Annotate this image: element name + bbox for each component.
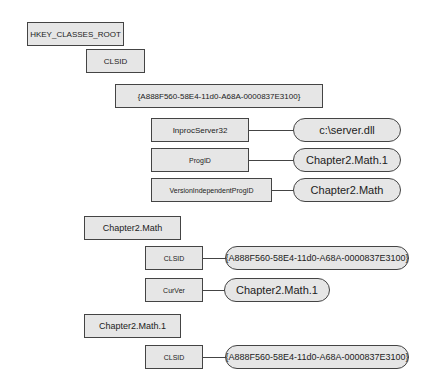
inproc-server-key-node: InprocServer32 (151, 118, 249, 142)
hkey-classes-root-node: HKEY_CLASSES_ROOT (27, 22, 124, 46)
math1-clsid-key-node: CLSID (145, 345, 203, 369)
inproc-connector (249, 130, 294, 131)
math-clsid-connector (203, 258, 226, 259)
math1-clsid-value-node: {A888F560-58E4-11d0-A68A-0000837E3100} (225, 345, 409, 369)
progid-value-node: Chapter2.Math.1 (293, 148, 401, 172)
version-independent-progid-key-node: VersionIndependentProgID (151, 178, 272, 202)
vip-connector (272, 190, 294, 191)
progid-key-node: ProgID (151, 148, 249, 172)
inproc-server-value-node: c:\server.dll (293, 118, 401, 142)
curver-key-node: CurVer (145, 278, 203, 302)
guid-key-node: {A888F560-58E4-11d0-A68A-0000837E3100} (115, 84, 323, 108)
chapter2-math1-key-node: Chapter2.Math.1 (84, 314, 181, 338)
curver-connector (203, 290, 225, 291)
clsid-root-node: CLSID (86, 49, 145, 73)
math1-clsid-connector (203, 357, 226, 358)
math-clsid-value-node: {A888F560-58E4-11d0-A68A-0000837E3100} (225, 246, 409, 270)
chapter2-math-key-node: Chapter2.Math (84, 216, 181, 240)
curver-value-node: Chapter2.Math.1 (224, 278, 330, 302)
math-clsid-key-node: CLSID (145, 246, 203, 270)
version-independent-progid-value-node: Chapter2.Math (293, 178, 401, 202)
progid-connector (249, 160, 294, 161)
